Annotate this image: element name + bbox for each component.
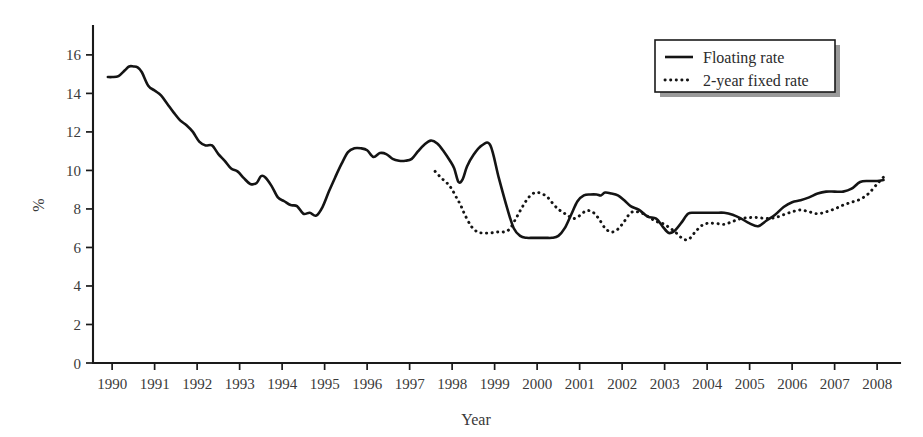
chart-container: 0246810121416 19901991199219931994199519…: [0, 0, 923, 437]
x-tick-label: 1994: [267, 376, 298, 392]
x-tick-label: 1996: [352, 376, 383, 392]
x-tick-label: 1991: [140, 376, 170, 392]
y-tick-label: 8: [74, 201, 82, 217]
y-tick-label: 14: [66, 86, 82, 102]
y-tick-label: 4: [74, 278, 82, 294]
x-tick-label: 1998: [437, 376, 467, 392]
y-tick-label: 2: [74, 317, 82, 333]
x-tick-labels: 1990199119921993199419951996199719981999…: [97, 376, 892, 392]
x-tick-label: 2000: [522, 376, 552, 392]
x-tick-label: 2006: [777, 376, 808, 392]
y-axis-title: %: [30, 198, 47, 211]
x-tick-label: 2002: [607, 376, 637, 392]
x-tick-label: 1992: [182, 376, 212, 392]
y-tick-label: 10: [66, 163, 81, 179]
y-tick-label: 12: [66, 124, 81, 140]
x-tick-label: 1993: [225, 376, 255, 392]
x-tick-label: 2005: [735, 376, 765, 392]
x-tick-label: 1999: [480, 376, 510, 392]
y-tick-labels: 0246810121416: [66, 47, 82, 371]
series-line-2-year-fixed-rate: [435, 171, 883, 240]
x-tick-label: 1990: [97, 376, 127, 392]
x-tick-label: 1995: [310, 376, 340, 392]
x-tick-label: 2003: [650, 376, 680, 392]
line-chart: 0246810121416 19901991199219931994199519…: [0, 0, 923, 437]
x-tick-label: 1997: [395, 376, 426, 392]
x-axis-title: Year: [461, 411, 491, 428]
y-tick-label: 0: [74, 356, 82, 372]
y-tick-label: 6: [74, 240, 82, 256]
tick-marks: [86, 55, 877, 370]
y-tick-label: 16: [66, 47, 82, 63]
x-tick-label: 2007: [820, 376, 851, 392]
x-tick-label: 2008: [862, 376, 892, 392]
legend-label: Floating rate: [703, 49, 784, 67]
x-tick-label: 2004: [692, 376, 723, 392]
legend-label: 2-year fixed rate: [703, 72, 809, 90]
legend: Floating rate2-year fixed rate: [655, 40, 840, 97]
x-tick-label: 2001: [565, 376, 595, 392]
